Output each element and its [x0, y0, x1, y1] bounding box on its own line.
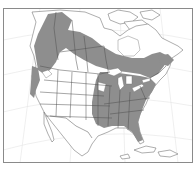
map-canvas [0, 0, 195, 169]
range-map [0, 0, 195, 169]
